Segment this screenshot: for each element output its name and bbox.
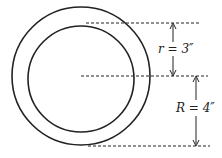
concentric-circles-diagram: r = 3″ R = 4″ (0, 0, 222, 158)
r-label: r = 3″ (158, 42, 194, 56)
inner-circle (28, 26, 134, 132)
R-label: R = 4″ (175, 101, 215, 115)
